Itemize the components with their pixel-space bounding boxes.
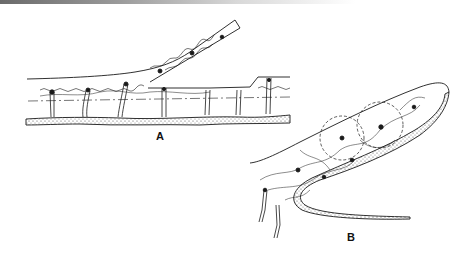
panel-b-drawing xyxy=(250,83,449,238)
panel-label-b: B xyxy=(347,231,355,243)
panel-a-drawing xyxy=(26,20,290,125)
panel-label-a: A xyxy=(156,130,164,142)
illustration xyxy=(0,0,474,258)
